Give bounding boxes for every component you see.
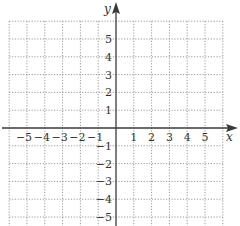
x-tick-label: 2	[148, 131, 155, 144]
x-tick-label: −3	[51, 131, 67, 144]
y-tick-label: 3	[105, 69, 112, 82]
y-tick-label: 1	[105, 104, 112, 117]
y-axis-label: y	[103, 2, 111, 16]
x-tick-label: −2	[69, 131, 85, 144]
y-tick-label: −4	[96, 193, 112, 206]
y-tick-label: −5	[96, 211, 112, 224]
x-axis-label: x	[226, 130, 233, 144]
x-tick-label: −5	[16, 131, 32, 144]
y-tick-label: −2	[96, 158, 112, 171]
coordinate-plane: x y −5−4−3−2−112345 −5−4−3−2−112345	[0, 0, 240, 226]
y-tick-label: 4	[105, 51, 112, 64]
x-tick-label: 5	[202, 131, 209, 144]
x-tick-label: −4	[34, 131, 50, 144]
y-tick-label: 2	[105, 86, 112, 99]
y-tick-label: −3	[96, 175, 112, 188]
x-tick-label: 1	[130, 131, 137, 144]
y-tick-label: 5	[105, 33, 112, 46]
x-tick-labels: −5−4−3−2−112345	[16, 131, 209, 144]
x-tick-label: 4	[184, 131, 191, 144]
y-tick-label: −1	[96, 140, 112, 153]
axes: x y	[2, 2, 238, 226]
x-tick-label: 3	[166, 131, 173, 144]
